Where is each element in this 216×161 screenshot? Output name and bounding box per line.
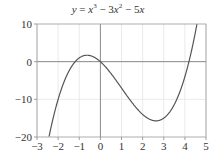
x-tick-label: −3 — [31, 140, 43, 152]
x-tick-label: −1 — [73, 140, 85, 152]
x-tick-label: 0 — [98, 140, 104, 152]
function-curve — [49, 24, 197, 136]
grid-lines — [37, 24, 206, 137]
x-tick-label: 5 — [203, 140, 209, 152]
x-tick-label: 4 — [182, 140, 188, 152]
y-tick-label: −20 — [15, 131, 33, 143]
axes — [34, 24, 206, 140]
tick-labels: −3−2−1012345−20−10010 — [15, 18, 209, 152]
chart-plot: −3−2−1012345−20−10010 — [0, 0, 216, 161]
x-tick-label: 1 — [119, 140, 125, 152]
y-tick-label: −10 — [15, 93, 33, 105]
x-tick-label: −2 — [52, 140, 64, 152]
x-tick-label: 3 — [161, 140, 167, 152]
y-tick-label: 10 — [21, 18, 33, 30]
y-tick-label: 0 — [27, 56, 33, 68]
x-tick-label: 2 — [140, 140, 146, 152]
